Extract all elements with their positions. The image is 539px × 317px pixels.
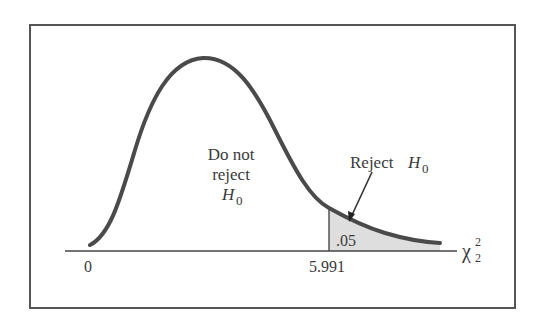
tick-label-critical-value: 5.991 [309, 258, 345, 275]
do-not-reject-h0: H [221, 185, 236, 204]
do-not-reject-h0-subscript: 0 [236, 193, 243, 208]
reject-arrow-shaft [352, 172, 372, 215]
reject-label: Reject [350, 153, 394, 172]
do-not-reject-label-line1: Do not [208, 145, 255, 164]
x-axis-label-subscript: 2 [475, 251, 481, 265]
chi-square-rejection-region-chart: χ 2 2 0 5.991 .05 Do not reject H 0 Reje… [0, 0, 539, 317]
do-not-reject-label-line2: reject [212, 165, 250, 184]
reject-h0: H [407, 153, 422, 172]
alpha-area-label: .05 [336, 232, 356, 249]
tick-label-zero: 0 [84, 258, 92, 275]
chart-frame [30, 25, 515, 308]
density-curve [90, 58, 440, 245]
x-axis-label: χ [461, 240, 471, 263]
x-axis-label-superscript: 2 [475, 235, 481, 249]
reject-h0-subscript: 0 [422, 161, 429, 176]
